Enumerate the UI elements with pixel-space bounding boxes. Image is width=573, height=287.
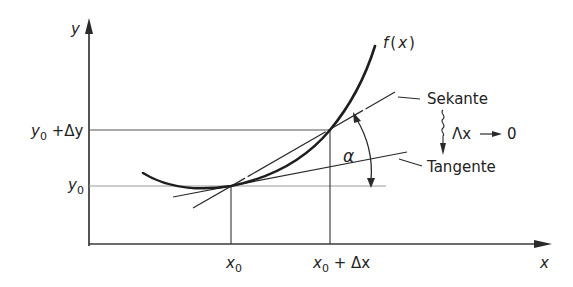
y0-label: y0: [67, 176, 84, 197]
limit-dx-label: Λx: [452, 125, 471, 143]
diagram-canvas: y x f(x) y0 +Δy y0 x0 x0 + Δx α Sekante …: [0, 0, 573, 287]
x-axis-label: x: [539, 254, 549, 272]
x0-label: x0: [225, 254, 242, 275]
angle-arc: [356, 118, 371, 180]
y-axis: [85, 18, 93, 246]
limit-arrow-right-icon: [492, 131, 502, 137]
limit-zero-label: 0: [507, 125, 517, 143]
limit-squiggle-icon: [442, 110, 444, 146]
x-axis: [89, 240, 552, 248]
angle-alpha-label: α: [343, 146, 354, 166]
x-axis-arrow-icon: [534, 240, 552, 248]
function-curve: [143, 46, 375, 188]
function-label: f(x): [383, 34, 415, 52]
y-axis-arrow-icon: [85, 18, 93, 34]
tangent-label: Tangente: [426, 158, 496, 176]
y-axis-label: y: [70, 20, 81, 38]
tangent-leader: [399, 159, 422, 166]
limit-arrow-down-icon: [440, 143, 446, 155]
secant-label: Sekante: [427, 90, 488, 108]
secant-line: [193, 92, 395, 208]
secant-leader: [398, 97, 420, 99]
y0-plus-dy-label: y0 +Δy: [30, 122, 83, 143]
x0-plus-dx-label: x0 + Δx: [312, 254, 370, 275]
